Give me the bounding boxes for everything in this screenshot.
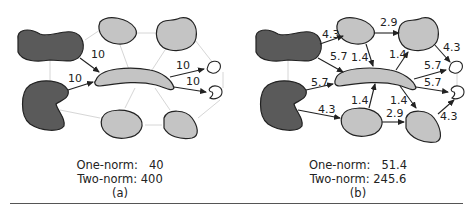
source-region-top xyxy=(256,30,321,61)
edge-label: 1.4 xyxy=(389,48,407,61)
two-norm-label: Two-norm: xyxy=(310,172,370,186)
edge-label: 2.9 xyxy=(386,107,404,120)
two-norm-label: Two-norm: xyxy=(77,172,137,186)
one-norm-value: 51.4 xyxy=(381,158,407,172)
edge-label: 10 xyxy=(176,59,190,72)
one-norm-value: 40 xyxy=(149,158,164,172)
region-top-middle xyxy=(337,18,374,44)
two-norm-row: Two-norm: 245.6 xyxy=(308,172,408,186)
edge-label: 5.7 xyxy=(424,76,442,89)
region-top-right xyxy=(157,18,197,51)
sink-region-bottom xyxy=(209,86,222,99)
region-top-right xyxy=(399,18,439,51)
divider-rule xyxy=(10,203,463,204)
two-norm-row: Two-norm: 400 xyxy=(75,172,165,186)
source-region-top xyxy=(18,30,83,61)
edge-label: 4.3 xyxy=(318,103,336,116)
source-region-bottom xyxy=(261,81,307,130)
one-norm-label: One-norm: xyxy=(76,158,138,172)
edge-label: 4.3 xyxy=(322,28,340,41)
edge-label: 4.3 xyxy=(440,110,458,123)
one-norm-row: One-norm: 51.4 xyxy=(308,158,408,172)
edge-label: 1.4 xyxy=(351,94,369,107)
edge-label: 5.7 xyxy=(311,76,329,89)
one-norm-label: One-norm: xyxy=(309,158,371,172)
caption-b: One-norm: 51.4 Two-norm: 245.6 (b) xyxy=(308,158,408,200)
panel-tag: (b) xyxy=(308,186,408,200)
region-bottom-middle xyxy=(341,108,382,136)
edge-label: 10 xyxy=(186,75,200,88)
edge-label: 2.9 xyxy=(380,16,398,29)
edge-label: 5.7 xyxy=(330,50,348,63)
source-region-bottom xyxy=(23,81,69,130)
edge-label: 1.4 xyxy=(351,51,369,64)
panel-a: 10 10 10 10 xyxy=(18,18,223,139)
panel-tag: (a) xyxy=(75,186,165,200)
one-norm-row: One-norm: 40 xyxy=(75,158,165,172)
sink-region-bottom xyxy=(451,86,464,99)
two-norm-value: 245.6 xyxy=(373,172,406,186)
edge-label: 10 xyxy=(91,48,105,61)
edge-label: 4.3 xyxy=(443,41,461,54)
region-bottom-middle xyxy=(101,110,142,138)
sink-region-top xyxy=(207,61,220,73)
edge-label: 10 xyxy=(68,72,82,85)
sink-region-top xyxy=(449,61,462,73)
panel-b: 4.3 5.7 2.9 1.4 1.4 4.3 5.7 5.7 5.7 1.4 … xyxy=(256,16,464,142)
central-region xyxy=(335,68,416,90)
two-norm-value: 400 xyxy=(141,172,163,186)
caption-a: One-norm: 40 Two-norm: 400 (a) xyxy=(75,158,165,200)
region-bottom-right xyxy=(164,111,197,138)
central-region xyxy=(95,68,174,90)
edge-label: 1.4 xyxy=(390,94,408,107)
region-top-middle xyxy=(99,18,136,44)
region-bottom-right xyxy=(406,111,440,142)
edge-label: 5.7 xyxy=(424,59,442,72)
